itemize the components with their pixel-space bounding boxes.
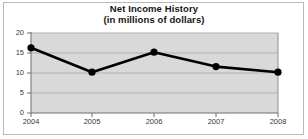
- y-tick-label-20: 20: [8, 29, 24, 37]
- data-point-2006: [150, 49, 157, 56]
- data-point-2004: [27, 44, 34, 51]
- x-tick-label-2006: 2006: [137, 118, 171, 126]
- y-tick-label-10: 10: [8, 69, 24, 77]
- x-tick-label-2008: 2008: [261, 118, 295, 126]
- data-point-2008: [274, 69, 281, 76]
- plot-area-wrapper: 20 15 10 5 0 2004 2005 2006 2007 2008: [0, 0, 308, 139]
- x-tick-label-2004: 2004: [14, 118, 48, 126]
- data-point-2007: [212, 63, 219, 70]
- data-point-2005: [88, 69, 95, 76]
- x-tick-label-2007: 2007: [199, 118, 233, 126]
- x-tick-label-2005: 2005: [75, 118, 109, 126]
- y-tick-label-5: 5: [8, 89, 24, 97]
- y-tick-label-15: 15: [8, 49, 24, 57]
- net-income-history-chart-figure: Net Income History (in millions of dolla…: [0, 0, 308, 139]
- y-tick-label-0: 0: [8, 109, 24, 117]
